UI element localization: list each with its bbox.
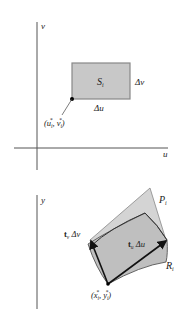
delta-v-label: Δv [134,77,144,87]
vector-tu-du-label: tu Δu [128,239,145,250]
v-axis-label: v [41,21,45,31]
parallelogram-p-label: Pi [158,194,167,206]
point-uv-label: (ui*, vi*) [44,117,65,129]
u-axis-label: u [163,149,168,159]
delta-u-label: Δu [93,103,104,113]
base-point [106,282,110,286]
region-r-label: Ri [165,260,174,272]
diagram-canvas: v u Si Δv Δu (ui*, vi*) y Pi Ri tu Δu tv… [0,0,182,309]
point-leader-line [62,99,72,115]
y-axis-label: y [40,195,45,205]
xy-plane: y Pi Ri tu Δu tv Δv (xi*, yi*) [37,188,174,309]
point-xy-label: (xi*, yi*) [91,289,111,301]
vector-tv-dv-label: tv Δv [64,229,80,240]
uv-plane: v u Si Δv Δu (ui*, vi*) [14,21,168,170]
